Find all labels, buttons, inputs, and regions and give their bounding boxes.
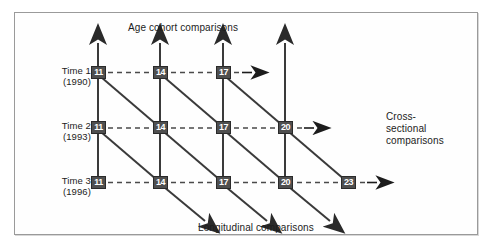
diagram-stage: Age cohort comparisons Longitudinal comp…: [15, 13, 477, 234]
node-time2-age14[interactable]: 14: [153, 121, 168, 134]
longitudinal-comparisons-label: Longitudinal comparisons: [198, 222, 314, 233]
row-label-time1-line1: Time 1: [33, 65, 91, 76]
vertical-axis-lines: [98, 43, 285, 188]
cross-sectional-label-line3: comparisons: [386, 135, 444, 146]
node-time3-age23[interactable]: 23: [341, 176, 356, 189]
row-label-time3-line1: Time 3: [33, 175, 91, 186]
node-time1-age11[interactable]: 11: [91, 66, 106, 79]
cross-sectional-label-line2: sectional: [386, 123, 426, 134]
cross-sectional-label-line1: Cross-: [386, 111, 416, 122]
node-time2-age20[interactable]: 20: [278, 121, 293, 134]
node-time3-age20[interactable]: 20: [278, 176, 293, 189]
node-time3-age14[interactable]: 14: [153, 176, 168, 189]
row-label-time3-line2: (1996): [33, 186, 91, 197]
row-label-time2-line1: Time 2: [33, 120, 91, 131]
age-cohort-comparisons-label: Age cohort comparisons: [128, 22, 238, 33]
row-label-time2-line2: (1993): [33, 131, 91, 142]
node-time3-age17[interactable]: 17: [216, 176, 231, 189]
node-time2-age17[interactable]: 17: [216, 121, 231, 134]
figure-frame: Age cohort comparisons Longitudinal comp…: [14, 12, 478, 235]
row-label-time1-line2: (1990): [33, 76, 91, 87]
node-time2-age11[interactable]: 11: [91, 121, 106, 134]
longitudinal-exit-arrows: [164, 187, 330, 221]
node-time1-age14[interactable]: 14: [153, 66, 168, 79]
node-time1-age17[interactable]: 17: [216, 66, 231, 79]
node-time3-age11[interactable]: 11: [91, 176, 106, 189]
